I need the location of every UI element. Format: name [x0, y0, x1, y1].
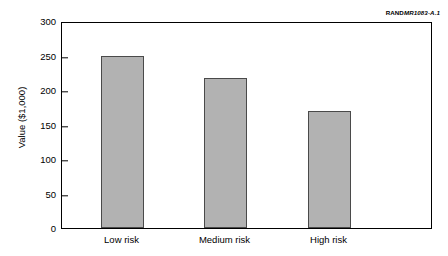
y-axis-tick-label: 300 [26, 17, 56, 27]
chart-figure: RANDMR1083-A.1 Value ($1,000) 0501001502… [0, 0, 448, 256]
y-axis-tick-label: 50 [26, 190, 56, 200]
y-axis-tick-label: 250 [26, 52, 56, 62]
credit-document-id: MR1083-A.1 [404, 9, 440, 16]
y-axis-tick-mark [62, 57, 68, 58]
y-axis-title: Value ($1,000) [16, 63, 27, 173]
bar [308, 111, 351, 228]
rand-credit-line: RANDMR1083-A.1 [386, 9, 440, 17]
y-axis-tick-label: 100 [26, 155, 56, 165]
plot-inner [62, 23, 431, 228]
bar [101, 56, 144, 229]
x-axis-tick-label: High risk [310, 234, 347, 245]
y-axis-tick-labels: 050100150200250300 [26, 22, 56, 229]
y-axis-tick-label: 150 [26, 121, 56, 131]
y-axis-tick-mark [62, 160, 68, 161]
x-axis-tick-label: Low risk [104, 234, 139, 245]
y-axis-tick-mark [62, 195, 68, 196]
x-axis-tick-labels: Low riskMedium riskHigh risk [61, 234, 432, 250]
x-axis-tick-label: Medium risk [199, 234, 250, 245]
y-axis-tick-label: 0 [26, 224, 56, 234]
credit-org: RAND [386, 9, 404, 16]
plot-area [61, 22, 432, 229]
y-axis-tick-label: 200 [26, 86, 56, 96]
bar [204, 78, 247, 228]
y-axis-tick-mark [62, 126, 68, 127]
y-axis-tick-mark [62, 91, 68, 92]
